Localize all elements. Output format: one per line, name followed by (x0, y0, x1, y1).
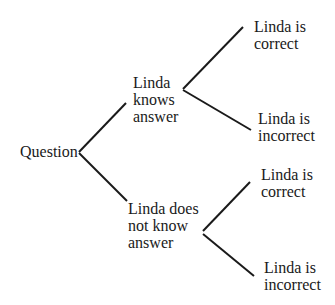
edge-knows-incorrect (183, 90, 251, 130)
edge-notknow-correct (203, 182, 250, 231)
leaf-knows-incorrect: Linda is incorrect (258, 110, 315, 144)
edge-knows-correct (183, 27, 243, 89)
edge-question-not-know (79, 153, 127, 201)
leaf-notknow-correct: Linda is correct (261, 166, 313, 200)
leaf-notknow-incorrect: Linda is incorrect (264, 259, 321, 293)
node-question: Question (20, 143, 78, 160)
edge-notknow-incorrect (203, 234, 254, 276)
node-linda-knows-answer: Linda knows answer (133, 74, 178, 125)
leaf-knows-correct: Linda is correct (254, 18, 306, 52)
node-linda-does-not-know-answer: Linda does not know answer (128, 200, 199, 251)
edge-question-knows (79, 103, 126, 152)
